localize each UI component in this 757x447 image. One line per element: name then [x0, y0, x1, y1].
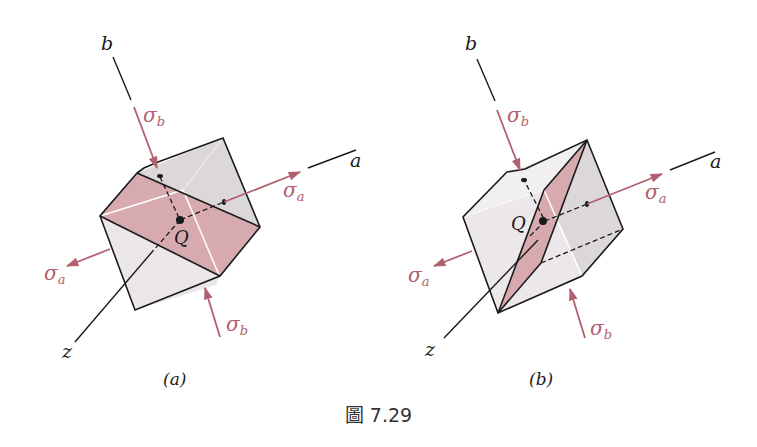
a-axis-label: a — [350, 149, 361, 171]
b-axis — [113, 57, 131, 100]
b-axis — [477, 59, 495, 101]
tick-mark — [157, 174, 163, 178]
a-axis-label: a — [710, 150, 721, 172]
sigma-b-arrow-bottom-a — [205, 288, 220, 337]
sigma-a-arrow-left-a — [67, 249, 110, 266]
sigma-a-label-left-b: σa — [408, 263, 429, 289]
sigma-b-label-top-b: σb — [507, 103, 529, 129]
a-axis — [308, 150, 356, 168]
sigma-a-label-left-a: σa — [44, 261, 65, 287]
sigma-b-arrow-bottom-b — [570, 289, 585, 338]
point-q-label: Q — [174, 227, 189, 248]
a-axis — [670, 152, 715, 170]
z-axis-label: z — [424, 338, 436, 360]
panel-b-sublabel: (b) — [529, 369, 553, 389]
point-q-b — [539, 217, 547, 225]
panel-a: b a z Q σb σa σa σb (a) — [44, 32, 361, 389]
b-axis-label: b — [465, 32, 477, 54]
point-q-label: Q — [511, 213, 526, 234]
figure-caption: 圖 7.29 — [0, 400, 757, 427]
b-axis-label: b — [101, 32, 113, 54]
sigma-a-arrow-left-b — [434, 251, 472, 266]
sigma-a-label-right-b: σa — [645, 180, 666, 206]
sigma-a-label-right-a: σa — [283, 178, 304, 204]
sigma-b-label-top-a: σb — [143, 103, 165, 129]
panel-a-sublabel: (a) — [163, 369, 186, 389]
tick-mark — [521, 178, 527, 182]
point-q-a — [176, 216, 184, 224]
panel-b: b a z Q σb σa σa σb (b) — [408, 32, 721, 389]
sigma-b-label-bottom-a: σb — [226, 312, 248, 338]
z-axis-label: z — [61, 340, 73, 362]
figure-canvas: b a z Q σb σa σa σb (a) — [0, 0, 757, 447]
sigma-b-label-bottom-b: σb — [590, 316, 612, 342]
